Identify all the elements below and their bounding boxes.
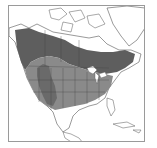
- arctic-islands: [49, 8, 105, 32]
- map-frame: [8, 5, 145, 142]
- north-america-map: [9, 6, 145, 142]
- florida-outline: [107, 98, 115, 116]
- central-america-outline: [63, 132, 83, 142]
- caribbean-islands: [113, 122, 141, 133]
- greenland-outline: [107, 6, 145, 46]
